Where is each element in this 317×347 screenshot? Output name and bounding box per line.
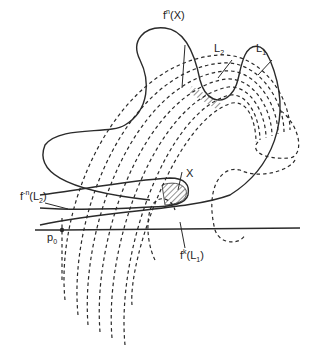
dashed-arc-6: [124, 95, 260, 345]
p0-point: [60, 228, 64, 232]
arrow-fk-l1: [180, 222, 185, 248]
label-fn-x: fn(X): [163, 8, 185, 21]
dashed-loop-right: [212, 160, 295, 242]
label-f-minus-n-l2: f-n(L2): [20, 189, 47, 204]
label-p0: p0: [47, 232, 57, 245]
label-x: X: [186, 168, 193, 179]
arrow-fnx: [182, 45, 185, 88]
diagram-canvas: fn(X) L2 L1 X f-n(L2) p0 fk(L1): [0, 0, 317, 347]
diagram-drawing: [0, 0, 317, 347]
label-l2: L2: [214, 43, 224, 56]
stable-line: [35, 228, 300, 230]
arrow-l1: [258, 60, 272, 75]
solid-curve-main: [40, 28, 280, 225]
label-l1: L1: [256, 43, 266, 56]
dashed-arc-1: [64, 55, 290, 300]
label-fk-l1: fk(L1): [180, 248, 204, 263]
